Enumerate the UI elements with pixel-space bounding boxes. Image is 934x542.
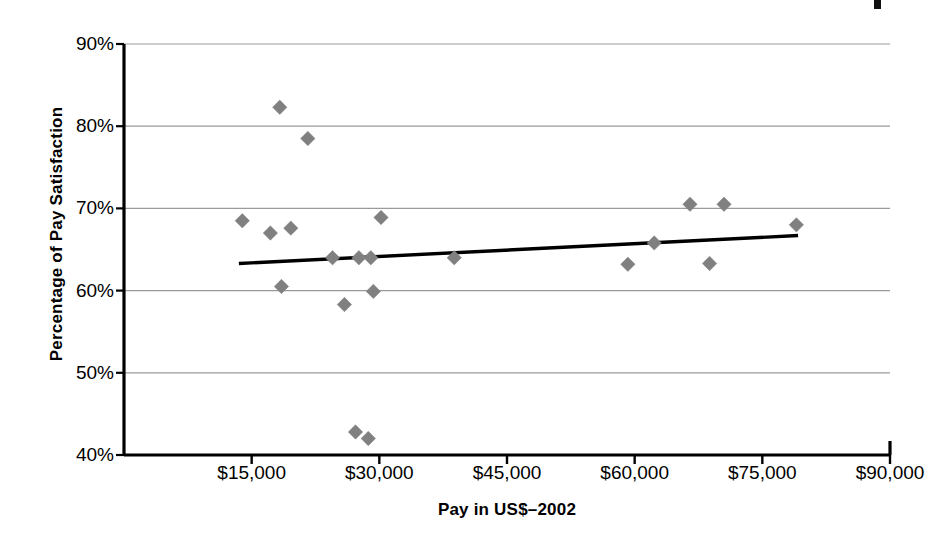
- data-point: [274, 279, 288, 293]
- data-point: [789, 218, 803, 232]
- data-point: [361, 431, 375, 445]
- data-point: [621, 257, 635, 271]
- data-point: [364, 251, 378, 265]
- data-point: [717, 197, 731, 211]
- trend-line-segment: [239, 236, 798, 264]
- data-point: [366, 284, 380, 298]
- trend-line: [239, 236, 798, 264]
- data-points: [235, 100, 803, 446]
- data-point: [337, 297, 351, 311]
- data-point: [284, 221, 298, 235]
- data-point: [325, 251, 339, 265]
- data-point: [702, 256, 716, 270]
- data-point: [348, 425, 362, 439]
- data-point: [301, 131, 315, 145]
- data-point: [235, 214, 249, 228]
- gridlines: [124, 44, 890, 373]
- data-point: [273, 100, 287, 114]
- data-point: [647, 236, 661, 250]
- data-point: [683, 197, 697, 211]
- plot-area: [0, 0, 934, 542]
- data-point: [374, 210, 388, 224]
- scatter-chart: Percentage of Pay Satisfaction Pay in US…: [0, 0, 934, 542]
- data-point: [263, 226, 277, 240]
